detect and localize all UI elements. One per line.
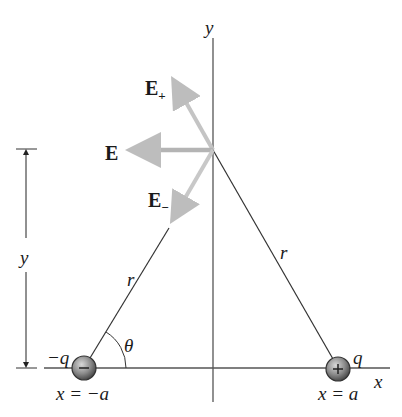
negative-charge-label: −q xyxy=(47,348,69,367)
e-plus-vector xyxy=(175,83,213,150)
theta-arc xyxy=(106,332,126,368)
r-left-label: r xyxy=(127,270,134,289)
positive-charge xyxy=(326,357,350,381)
theta-label: θ xyxy=(124,336,133,355)
negative-charge xyxy=(72,356,96,380)
e-minus-vector xyxy=(174,150,213,217)
negative-charge-position: x = −a xyxy=(56,384,109,403)
y-axis-label: y xyxy=(205,18,213,37)
r-line-right xyxy=(213,150,333,359)
e-minus-label: E− xyxy=(148,190,169,214)
positive-charge-label: q xyxy=(353,348,363,367)
e-plus-label: E+ xyxy=(145,78,166,102)
height-y-label: y xyxy=(20,248,28,267)
e-label: E xyxy=(105,143,118,163)
x-axis-label: x xyxy=(374,372,382,391)
r-right-label: r xyxy=(280,243,287,262)
positive-charge-position: x = a xyxy=(318,384,358,403)
